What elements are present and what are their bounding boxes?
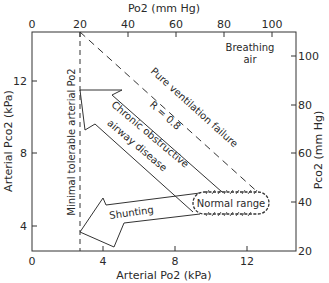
x2-axis-label: Po2 (mm Hg) — [128, 2, 200, 15]
x-tick-12: 12 — [240, 255, 254, 268]
r-value-label: R = 0.8 — [148, 99, 183, 132]
y2-axis-ticks — [291, 56, 296, 202]
x2-tick-0: 0 — [29, 18, 36, 31]
x2-tick-80: 80 — [217, 18, 231, 31]
y-axis-tick-labels: 12 8 4 — [13, 75, 27, 233]
breathing-air-label-1: Breathing — [226, 42, 275, 53]
y-tick-12: 12 — [13, 75, 27, 88]
x2-tick-40: 40 — [121, 18, 135, 31]
x2-axis-tick-labels: 0 20 40 60 80 100 — [29, 18, 283, 31]
y-axis-label: Arterial Pco2 (kPa) — [2, 90, 15, 192]
y2-tick-40: 40 — [298, 196, 312, 209]
y2-tick-100: 100 — [298, 50, 319, 63]
x2-tick-60: 60 — [169, 18, 183, 31]
normal-range-region: Normal range — [193, 190, 269, 216]
y-tick-4: 4 — [20, 220, 27, 233]
y2-tick-60: 60 — [298, 147, 312, 160]
y2-tick-20: 20 — [298, 245, 312, 258]
x-tick-0: 0 — [29, 255, 36, 268]
y-tick-8: 8 — [20, 147, 27, 160]
y-axis-ticks — [32, 81, 37, 226]
y2-axis-label: Pco2 (mm Hg) — [312, 111, 325, 190]
x-tick-4: 4 — [100, 255, 107, 268]
x-tick-8: 8 — [172, 255, 179, 268]
respiratory-failure-diagram: 0 4 8 12 Arterial Po2 (kPa) 0 20 40 60 8… — [0, 0, 329, 283]
y2-tick-80: 80 — [298, 99, 312, 112]
shunting-label: Shunting — [109, 204, 155, 221]
x-axis-ticks — [103, 246, 247, 251]
minimal-po2-label: Minimal tolerable arterial Po2 — [66, 68, 77, 215]
shunting-arrow — [80, 193, 200, 247]
x2-tick-20: 20 — [73, 18, 87, 31]
x-axis-label: Arterial Po2 (kPa) — [116, 269, 211, 282]
x2-axis-ticks — [80, 32, 272, 37]
x-axis-tick-labels: 0 4 8 12 — [29, 255, 255, 268]
normal-range-label: Normal range — [197, 198, 265, 209]
x2-tick-100: 100 — [262, 18, 283, 31]
breathing-air-label-2: air — [243, 54, 257, 65]
